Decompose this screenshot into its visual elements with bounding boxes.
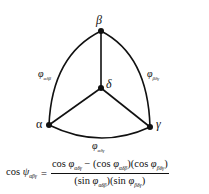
label-alpha: α [36, 118, 42, 130]
edge-label-alpha-beta: φαδβ [38, 69, 51, 81]
cosine-formula: cos ψαβγ = cos φαδγ − (cos φαδβ)(cos φβδ… [6, 157, 206, 189]
node-beta [98, 28, 104, 34]
spoke-delta-gamma [101, 88, 150, 127]
arc-alpha-beta [49, 31, 101, 125]
spoke-delta-alpha [49, 88, 101, 125]
label-beta: β [96, 14, 102, 26]
formula-fraction: cos φαδγ − (cos φαδβ)(cos φβδγ) (sin φαδ… [51, 158, 169, 187]
label-delta: δ [106, 78, 112, 90]
formula-denominator: (sin φαδβ)(sin φβδγ) [74, 174, 145, 188]
label-gamma: γ [156, 118, 161, 130]
node-delta [98, 85, 104, 91]
edge-label-beta-gamma: φβδγ [147, 69, 159, 81]
arc-alpha-gamma [49, 125, 150, 138]
node-gamma [147, 124, 153, 130]
formula-lhs: cos ψαβγ [6, 166, 37, 179]
edge-label-alpha-gamma: φαδγ [92, 141, 104, 153]
formula-numerator: cos φαδγ − (cos φαδβ)(cos φβδγ) [51, 158, 169, 173]
formula-equals: = [41, 168, 47, 179]
node-alpha [46, 122, 52, 128]
